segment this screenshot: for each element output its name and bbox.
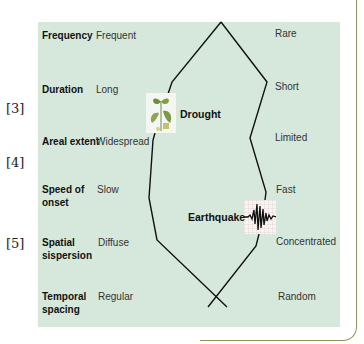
hazard-envelope-lines xyxy=(0,0,364,344)
drought-label: Drought xyxy=(180,108,221,120)
drought-envelope-line xyxy=(168,22,221,94)
earthquake-label: Earthquake xyxy=(188,211,245,223)
earthquake-envelope-line xyxy=(221,22,267,200)
seismograph-icon xyxy=(244,200,276,234)
plant-seedling-icon xyxy=(146,93,176,133)
